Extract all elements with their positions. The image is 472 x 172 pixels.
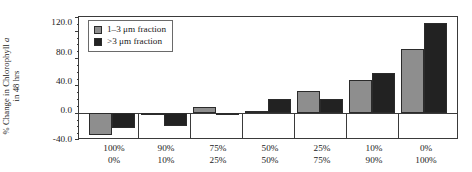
y-tick-major-120	[75, 31, 79, 32]
bar-dark-g7	[424, 23, 447, 113]
category-divider-5	[346, 113, 347, 139]
x-label-group-1-top: 100%	[88, 143, 140, 155]
y-tick-minor-90	[77, 51, 80, 52]
x-label-group-4-top: 50%	[244, 143, 296, 155]
legend-swatch-icon-dark	[94, 38, 102, 46]
x-label-group-3: 75% 25%	[192, 143, 244, 166]
x-label-group-5: 25% 75%	[296, 143, 348, 166]
y-tick-minor-30	[77, 92, 80, 93]
bar-dark-g6	[372, 73, 395, 113]
zero-baseline	[79, 113, 457, 114]
legend-swatch-icon-light	[94, 26, 102, 34]
x-label-group-7-top: 0%	[400, 143, 452, 155]
category-divider-3	[242, 113, 243, 139]
y-tick-minor-neg20	[77, 126, 80, 127]
y-tick-label-0: 0.0	[32, 106, 72, 115]
y-tick-minor-20	[77, 99, 80, 100]
bar-dark-g4	[268, 99, 291, 113]
x-label-group-6: 10% 90%	[348, 143, 400, 166]
x-label-group-3-bottom: 25%	[192, 155, 244, 167]
y-tick-major-40	[75, 85, 79, 86]
y-tick-label-neg40: -40.0	[32, 135, 72, 144]
y-tick-140	[75, 17, 79, 18]
bar-light-g5	[297, 91, 320, 113]
x-label-group-5-bottom: 75%	[296, 155, 348, 167]
bar-light-g1	[89, 113, 112, 136]
y-tick-minor-100	[77, 44, 80, 45]
bar-dark-g1	[112, 113, 135, 128]
x-label-group-7: 0% 100%	[400, 143, 452, 166]
category-divider-4	[294, 113, 295, 139]
category-divider-1	[138, 113, 139, 139]
y-axis-title-line1: % Change in Chlorophyll a	[1, 37, 11, 134]
y-tick-label-120: 120.0	[32, 18, 72, 27]
bar-light-g2	[141, 113, 164, 115]
bar-light-g6	[349, 80, 372, 113]
y-tick-minor-neg30	[77, 133, 80, 134]
x-label-group-6-top: 10%	[348, 143, 400, 155]
chart-figure: % Change in Chlorophyll a in 48 hrs 120.…	[0, 0, 472, 172]
y-axis-title-line2: in 48 hrs	[12, 37, 22, 134]
x-label-group-4: 50% 50%	[244, 143, 296, 166]
x-label-group-4-bottom: 50%	[244, 155, 296, 167]
x-label-group-1-bottom: 0%	[88, 155, 140, 167]
y-tick-label-40: 40.0	[32, 77, 72, 86]
category-divider-6	[398, 113, 399, 139]
y-axis-tick-labels: 120.0 80.0 40.0 0.0 -40.0	[28, 0, 72, 172]
y-tick-minor-110	[77, 38, 80, 39]
x-label-group-2-top: 90%	[140, 143, 192, 155]
y-tick-minor-70	[77, 65, 80, 66]
legend-label-dark: >3 μm fraction	[107, 37, 162, 46]
x-label-group-6-bottom: 90%	[348, 155, 400, 167]
y-tick-minor-60	[77, 72, 80, 73]
y-tick-minor-50	[77, 79, 80, 80]
y-tick-minor-neg10	[77, 120, 80, 121]
x-label-group-2: 90% 10%	[140, 143, 192, 166]
y-tick-major-80	[75, 58, 79, 59]
y-axis-title: % Change in Chlorophyll a in 48 hrs	[0, 0, 24, 172]
x-label-group-7-bottom: 100%	[400, 155, 452, 167]
y-tick-major-neg40	[75, 139, 79, 140]
chart-legend: 1–3 μm fraction >3 μm fraction	[88, 20, 173, 52]
y-tick-minor-10	[77, 106, 80, 107]
bar-light-g3	[193, 107, 216, 113]
legend-item-light: 1–3 μm fraction	[94, 24, 166, 36]
plot-area: 1–3 μm fraction >3 μm fraction	[78, 16, 458, 139]
x-label-group-3-top: 75%	[192, 143, 244, 155]
x-label-group-5-top: 25%	[296, 143, 348, 155]
x-label-group-1: 100% 0%	[88, 143, 140, 166]
y-axis-title-italic: a	[1, 37, 11, 41]
legend-item-dark: >3 μm fraction	[94, 36, 166, 48]
bar-light-g7	[401, 49, 424, 113]
y-tick-label-80: 80.0	[32, 48, 72, 57]
y-tick-minor-130	[77, 24, 80, 25]
category-divider-2	[190, 113, 191, 139]
bar-light-g4	[245, 111, 268, 113]
legend-label-light: 1–3 μm fraction	[107, 25, 166, 34]
x-label-group-2-bottom: 10%	[140, 155, 192, 167]
bar-dark-g5	[320, 99, 343, 113]
bar-dark-g3	[216, 113, 239, 116]
bar-dark-g2	[164, 113, 187, 127]
